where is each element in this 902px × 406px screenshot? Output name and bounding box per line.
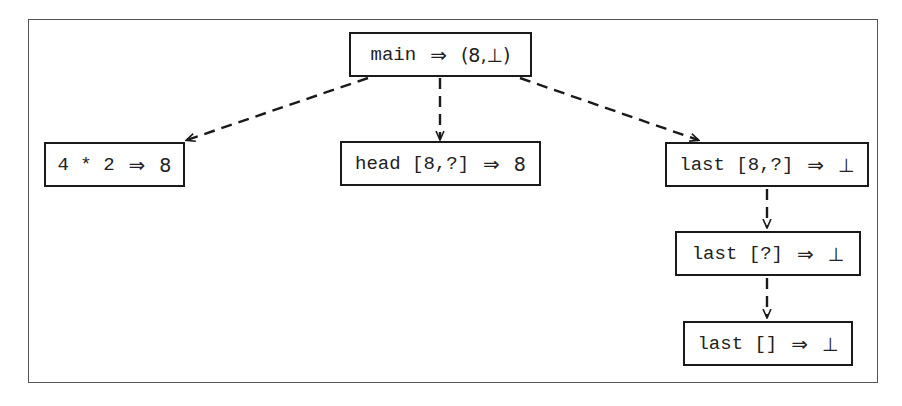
implies-arrow-icon: ⇒: [430, 43, 447, 67]
implies-arrow-icon: ⇒: [807, 153, 824, 177]
node-expr: 4 * 2: [58, 154, 115, 176]
node-head: head [8,?]⇒8: [340, 141, 541, 186]
node-expr: last [8,?]: [679, 154, 793, 176]
node-last-1: last [8,?]⇒⊥: [665, 142, 869, 187]
node-result: 8: [159, 154, 171, 176]
node-expr: last [?]: [692, 243, 783, 265]
node-result: 8: [514, 153, 526, 175]
node-result: ⊥: [822, 333, 839, 355]
node-result: ⊥: [838, 154, 855, 176]
node-main: main⇒(8,⊥): [349, 32, 532, 77]
node-last-2: last [?]⇒⊥: [675, 231, 861, 276]
node-expr: head [8,?]: [355, 153, 469, 175]
node-expr: main: [371, 44, 417, 66]
node-result: ⊥: [828, 243, 845, 265]
node-result: (8,⊥): [461, 44, 511, 66]
node-mul: 4 * 2⇒8: [44, 142, 185, 187]
implies-arrow-icon: ⇒: [129, 153, 146, 177]
node-last-3: last []⇒⊥: [683, 321, 853, 366]
node-expr: last []: [697, 333, 777, 355]
implies-arrow-icon: ⇒: [791, 332, 808, 356]
implies-arrow-icon: ⇒: [483, 152, 500, 176]
implies-arrow-icon: ⇒: [797, 242, 814, 266]
